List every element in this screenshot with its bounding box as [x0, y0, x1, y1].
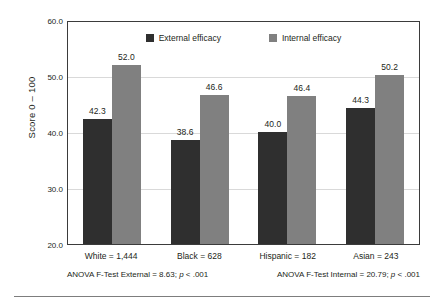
y-tick-label-60: 60.0 [32, 17, 63, 26]
plot-area: 42.3 52.0 38.6 46.6 40.0 [67, 21, 420, 245]
bar-value-label: 46.4 [294, 83, 311, 93]
bar-value-label: 52.0 [118, 52, 135, 62]
chart-legend: External efficacy Internal efficacy [67, 33, 420, 43]
bar-value-label: 50.2 [381, 62, 398, 72]
bar-value-label: 40.0 [265, 119, 282, 129]
chart-footnotes: ANOVA F-Test External = 8.63; p < .001 A… [67, 270, 420, 279]
bar-series-container: 42.3 52.0 38.6 46.6 40.0 [68, 22, 419, 244]
legend-swatch-icon-internal [269, 34, 277, 42]
bar-group-hispanic: 40.0 46.4 [244, 22, 332, 244]
x-tick-label-white: White = 1,444 [67, 251, 155, 261]
bar-external-asian[interactable]: 44.3 [346, 108, 375, 244]
bar-value-label: 38.6 [177, 127, 194, 137]
bar-group-black: 38.6 46.6 [156, 22, 244, 244]
footnote-anova-internal: ANOVA F-Test Internal = 20.79; p < .001 [277, 270, 420, 279]
bar-chart-figure: Score 0 – 100 60.0 50.0 40.0 30.0 20.0 4… [0, 0, 444, 306]
y-tick-label-20: 20.0 [32, 241, 63, 250]
x-axis-tick-labels: White = 1,444 Black = 628 Hispanic = 182… [67, 251, 420, 261]
footnote-internal-prefix: ANOVA F-Test Internal = 20.79; [277, 270, 391, 279]
y-tick-label-40: 40.0 [32, 129, 63, 138]
bar-internal-white[interactable]: 52.0 [112, 65, 141, 244]
bottom-divider [14, 296, 430, 297]
y-tick-label-50: 50.0 [32, 73, 63, 82]
legend-item-internal[interactable]: Internal efficacy [269, 33, 341, 43]
legend-label-external: External efficacy [159, 33, 221, 43]
x-tick-label-asian: Asian = 243 [332, 251, 420, 261]
x-tick-label-black: Black = 628 [155, 251, 243, 261]
legend-swatch-icon-external [146, 34, 154, 42]
x-tick-label-hispanic: Hispanic = 182 [244, 251, 332, 261]
bar-external-black[interactable]: 38.6 [171, 140, 200, 244]
y-tick-label-30: 30.0 [32, 185, 63, 194]
legend-label-internal: Internal efficacy [282, 33, 341, 43]
bar-external-hispanic[interactable]: 40.0 [258, 132, 287, 244]
legend-item-external[interactable]: External efficacy [146, 33, 221, 43]
bar-group-white: 42.3 52.0 [68, 22, 156, 244]
footnote-anova-external: ANOVA F-Test External = 8.63; p < .001 [67, 270, 208, 279]
bar-group-asian: 44.3 50.2 [331, 22, 419, 244]
y-axis-title: Score 0 – 100 [26, 33, 37, 183]
bar-value-label: 42.3 [89, 106, 106, 116]
bar-external-white[interactable]: 42.3 [83, 119, 112, 244]
footnote-external-prefix: ANOVA F-Test External = 8.63; [67, 270, 179, 279]
bar-internal-hispanic[interactable]: 46.4 [287, 96, 316, 244]
bar-value-label: 46.6 [206, 82, 223, 92]
bar-internal-asian[interactable]: 50.2 [375, 75, 404, 244]
bar-value-label: 44.3 [352, 95, 369, 105]
footnote-external-suffix: < .001 [184, 270, 209, 279]
footnote-internal-suffix: < .001 [395, 270, 420, 279]
bar-internal-black[interactable]: 46.6 [200, 95, 229, 244]
